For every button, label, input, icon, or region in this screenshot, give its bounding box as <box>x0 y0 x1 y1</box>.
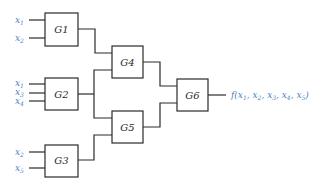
wire-g3-to-g5 <box>78 135 112 160</box>
gate-g6: G6 <box>177 79 208 111</box>
gate-g5: G5 <box>112 111 143 143</box>
gate-g3: G3 <box>45 145 78 177</box>
gate-g1: G1 <box>45 13 78 46</box>
wire-g5-to-g6 <box>143 103 177 127</box>
gate-g2-label: G2 <box>54 89 68 100</box>
input-label-g3-x2: x2 <box>15 147 24 158</box>
input-label-g1-x1: x1 <box>15 15 24 26</box>
logic-circuit-diagram: G1 G2 G3 G4 G5 G6 x1 x2 x1 x3 x4 x2 x5 f… <box>0 0 326 185</box>
wire-g2-to-g4 <box>94 70 112 94</box>
wire-g4-to-g6 <box>143 62 177 86</box>
gate-g5-label: G5 <box>120 122 134 133</box>
output-function-label: f(x1, x2, x3, x4, x5) <box>230 90 309 101</box>
input-label-g1-x2: x2 <box>15 33 24 44</box>
wire-g1-to-g4 <box>78 29 112 53</box>
gate-g2: G2 <box>45 78 78 110</box>
wire-g2-to-g5 <box>94 94 112 118</box>
gate-g4-label: G4 <box>120 57 134 68</box>
gate-g1-label: G1 <box>54 24 68 35</box>
gate-g6-label: G6 <box>185 90 200 101</box>
input-label-g3-x5: x5 <box>15 163 24 174</box>
gate-g3-label: G3 <box>54 155 68 166</box>
gate-g4: G4 <box>112 46 143 78</box>
